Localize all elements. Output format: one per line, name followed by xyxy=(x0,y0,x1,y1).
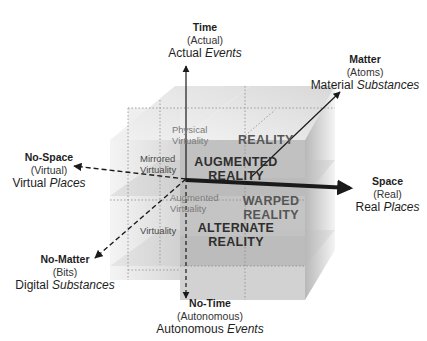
matter-title: Matter xyxy=(305,53,425,66)
time-axis-label: Time (Actual) Actual Events xyxy=(150,21,260,60)
no-space-description: Virtual Places xyxy=(4,177,94,190)
no-time-title: No-Time xyxy=(135,297,285,310)
cell-augmented-virtuality: AugmentedVirtuality xyxy=(170,192,219,214)
no-matter-axis-label: No-Matter (Bits) Digital Substances xyxy=(5,253,125,292)
no-matter-description: Digital Substances xyxy=(5,279,125,292)
no-matter-title: No-Matter xyxy=(5,253,125,266)
cell-reality: REALITY xyxy=(238,133,294,147)
space-title: Space xyxy=(350,175,425,188)
cell-virtuality: Virtuality xyxy=(140,225,176,236)
no-time-axis-label: No-Time (Autonomous) Autonomous Events xyxy=(135,297,285,336)
no-space-title: No-Space xyxy=(4,151,94,164)
space-description: Real Places xyxy=(350,201,425,214)
cell-augmented-reality: AUGMENTEDREALITY xyxy=(186,155,286,183)
cell-physical-virtuality: PhysicalVirtuality xyxy=(172,124,208,146)
time-description: Actual Events xyxy=(150,47,260,60)
space-axis-label: Space (Real) Real Places xyxy=(350,175,425,214)
matter-description: Material Substances xyxy=(305,79,425,92)
matter-axis-label: Matter (Atoms) Material Substances xyxy=(305,53,425,92)
time-title: Time xyxy=(150,21,260,34)
cell-warped-reality: WARPEDREALITY xyxy=(236,194,306,222)
no-space-axis-label: No-Space (Virtual) Virtual Places xyxy=(4,151,94,190)
cell-alternate-reality: ALTERNATEREALITY xyxy=(186,221,286,249)
no-time-description: Autonomous Events xyxy=(135,323,285,336)
cell-mirrored-virtuality: MirroredVirtuality xyxy=(140,153,176,175)
